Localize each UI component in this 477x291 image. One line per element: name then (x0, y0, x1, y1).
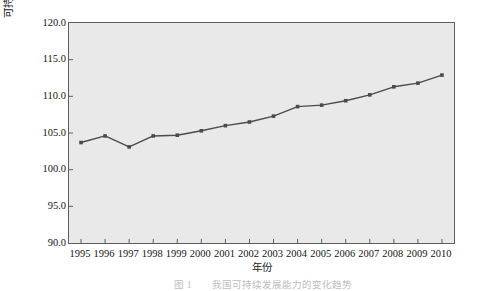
data-point-marker (368, 93, 372, 97)
y-tick-label: 110.0 (24, 90, 66, 101)
x-tick-label: 2010 (421, 247, 461, 260)
marker-group (79, 73, 444, 148)
data-point-marker (103, 134, 107, 138)
data-point-marker (200, 129, 204, 133)
data-point-marker (151, 134, 155, 138)
y-tick-label: 105.0 (24, 127, 66, 138)
data-point-marker (440, 73, 444, 77)
x-axis-label: 年份 (68, 261, 455, 274)
y-tick-label: 115.0 (24, 53, 66, 64)
data-point-marker (320, 103, 324, 107)
data-point-marker (392, 85, 396, 89)
y-tick-label: 95.0 (24, 200, 66, 211)
plot-area (68, 22, 455, 244)
data-point-marker (248, 120, 252, 124)
x-axis-tick-labels: 1995199619971998199920002001200220032004… (0, 247, 477, 261)
y-tick-label: 90.0 (24, 237, 66, 248)
y-tick-label: 100.0 (24, 163, 66, 174)
y-axis-tick-labels: 120.0115.0110.0105.0100.095.090.0 (24, 0, 66, 286)
data-point-marker (344, 99, 348, 103)
data-point-marker (296, 105, 300, 109)
y-axis-tick-marks (69, 60, 73, 207)
data-point-marker (224, 124, 228, 128)
data-point-marker (416, 81, 420, 85)
y-axis-label: 可持续发展能力(1995年全国为100) (0, 0, 18, 54)
data-point-marker (272, 114, 276, 118)
data-point-marker (175, 133, 179, 137)
line-series (81, 75, 442, 147)
data-series-svg (69, 23, 454, 243)
data-point-marker (127, 145, 131, 149)
figure-caption: 图 1 我国可持续发展能力的变化趋势 (68, 279, 458, 291)
y-tick-label: 120.0 (24, 17, 66, 28)
x-axis-tick-marks (81, 239, 442, 243)
data-point-marker (79, 141, 83, 145)
